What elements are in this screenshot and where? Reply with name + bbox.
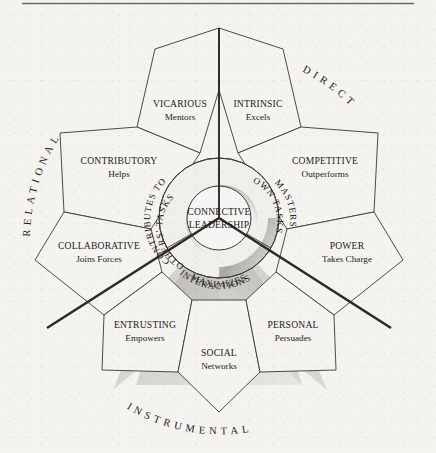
- axis-label-direct: DIRECT: [301, 63, 359, 109]
- core-label-line1: CONNECTIVE: [187, 206, 250, 217]
- petal-social-sub: Networks: [201, 361, 237, 371]
- petal-intrinsic-title: INTRINSIC: [233, 98, 282, 109]
- petal-power-title: POWER: [330, 240, 365, 251]
- petal-collaborative-title: COLLABORATIVE: [58, 240, 140, 251]
- petal-intrinsic-sub: Excels: [246, 112, 271, 122]
- petal-competitive-title: COMPETITIVE: [292, 155, 358, 166]
- petal-contributory-title: CONTRIBUTORY: [81, 155, 158, 166]
- petal-contributory-sub: Helps: [108, 169, 130, 179]
- axis-label-relational: RELATIONAL: [21, 131, 63, 237]
- petal-power-sub: Takes Charge: [322, 254, 372, 264]
- petal-collaborative-sub: Joins Forces: [76, 254, 122, 264]
- petal-entrusting-title: ENTRUSTING: [114, 319, 176, 330]
- petal-competitive-sub: Outperforms: [302, 169, 349, 179]
- connective-leadership-diagram: RELATIONAL DIRECT INSTRUMENTAL CONTRIBUT…: [0, 0, 436, 453]
- petal-personal-title: PERSONAL: [267, 319, 318, 330]
- figure-canvas: RELATIONAL DIRECT INSTRUMENTAL CONTRIBUT…: [0, 0, 436, 453]
- petal-entrusting-sub: Empowers: [125, 333, 165, 343]
- petal-personal-sub: Persuades: [275, 333, 312, 343]
- petal-social-title: SOCIAL: [201, 347, 237, 358]
- petal-vicarious-title: VICARIOUS: [153, 98, 207, 109]
- petal-vicarious-sub: Mentors: [165, 112, 196, 122]
- core-label-line2: LEADERSHIP: [189, 219, 250, 230]
- axis-label-instrumental: INSTRUMENTAL: [125, 400, 253, 436]
